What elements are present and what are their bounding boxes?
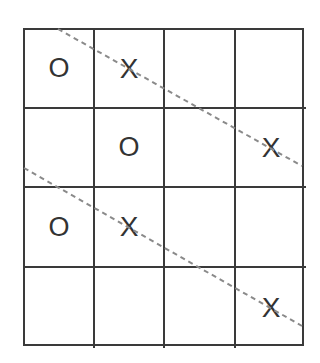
cell-r2-c0[interactable]: O [25,188,95,268]
cell-r0-c0[interactable]: O [25,30,95,109]
cell-r1-c0[interactable] [25,109,95,188]
cell-r0-c2[interactable] [165,30,236,109]
cell-mark: X [120,213,139,241]
cell-r3-c2[interactable] [165,268,236,348]
cell-r2-c2[interactable] [165,188,236,268]
cell-r1-c3[interactable]: X [236,109,306,188]
cell-r0-c1[interactable]: X [95,30,165,109]
cell-mark: X [262,294,281,322]
cell-mark: X [262,134,281,162]
cell-mark: O [118,134,139,161]
cell-r3-c3[interactable]: X [236,268,306,348]
game-board: O X O X O X X [23,28,304,346]
cell-r1-c1[interactable]: O [95,109,165,188]
cell-mark: O [48,214,69,241]
cell-mark: O [48,55,69,82]
cell-r2-c1[interactable]: X [95,188,165,268]
cell-r2-c3[interactable] [236,188,306,268]
cell-mark: X [120,55,139,83]
cell-r0-c3[interactable] [236,30,306,109]
cell-r3-c1[interactable] [95,268,165,348]
cell-r3-c0[interactable] [25,268,95,348]
cell-r1-c2[interactable] [165,109,236,188]
